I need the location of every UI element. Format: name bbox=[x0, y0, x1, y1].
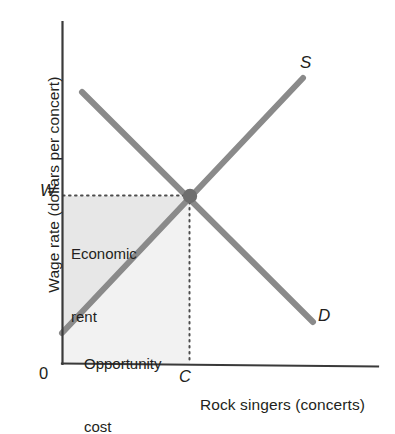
equilibrium-point bbox=[183, 189, 197, 203]
opportunity-cost-label: Opportunity cost bbox=[84, 310, 162, 434]
x-axis-title: Rock singers (concerts) bbox=[200, 396, 365, 413]
demand-curve-label: D bbox=[318, 306, 330, 325]
opportunity-cost-line-1: Opportunity bbox=[84, 353, 162, 374]
wage-tick-label: W bbox=[40, 181, 56, 199]
origin-label: 0 bbox=[39, 364, 48, 382]
quantity-tick-label: C bbox=[179, 367, 191, 385]
opportunity-cost-line-2: cost bbox=[84, 416, 162, 434]
supply-curve-label: S bbox=[300, 53, 311, 72]
economic-rent-line-1: Economic bbox=[71, 243, 137, 264]
supply-demand-figure: Wage rate (dollars per concert) Rock sin… bbox=[0, 0, 395, 434]
